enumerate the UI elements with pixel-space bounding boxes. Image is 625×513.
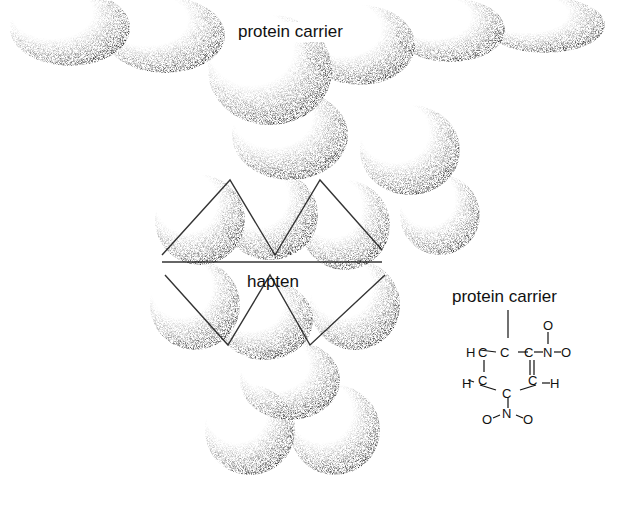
svg-text:O: O <box>543 318 553 333</box>
svg-text:C: C <box>502 386 511 401</box>
svg-text:N: N <box>543 345 552 360</box>
svg-text:O: O <box>482 412 492 427</box>
svg-text:C: C <box>528 373 537 388</box>
svg-text:O: O <box>523 412 533 427</box>
protein-carrier-label: protein carrier <box>236 22 345 42</box>
svg-text:C: C <box>524 345 533 360</box>
bottom-nitro-atoms <box>205 340 380 475</box>
formula-title: protein carrier <box>452 287 557 307</box>
hapten-label: hapten <box>247 272 299 292</box>
svg-text:N: N <box>502 406 511 421</box>
svg-text:C: C <box>500 345 509 360</box>
svg-text:O: O <box>561 345 571 360</box>
hapten-carrier-figure: H C C C N O O C H C H C N O O protein ca… <box>0 0 625 513</box>
svg-text:C: C <box>478 345 487 360</box>
svg-text:H: H <box>466 345 475 360</box>
svg-text:H: H <box>462 376 471 391</box>
formula-atoms: H C C C N O O C H C H C N O O <box>462 318 571 427</box>
hapten-ring-atoms <box>150 170 400 360</box>
stippled-atoms <box>10 0 605 475</box>
svg-text:C: C <box>478 373 487 388</box>
space-filling-model: H C C C N O O C H C H C N O O <box>0 0 625 513</box>
svg-text:H: H <box>550 376 559 391</box>
